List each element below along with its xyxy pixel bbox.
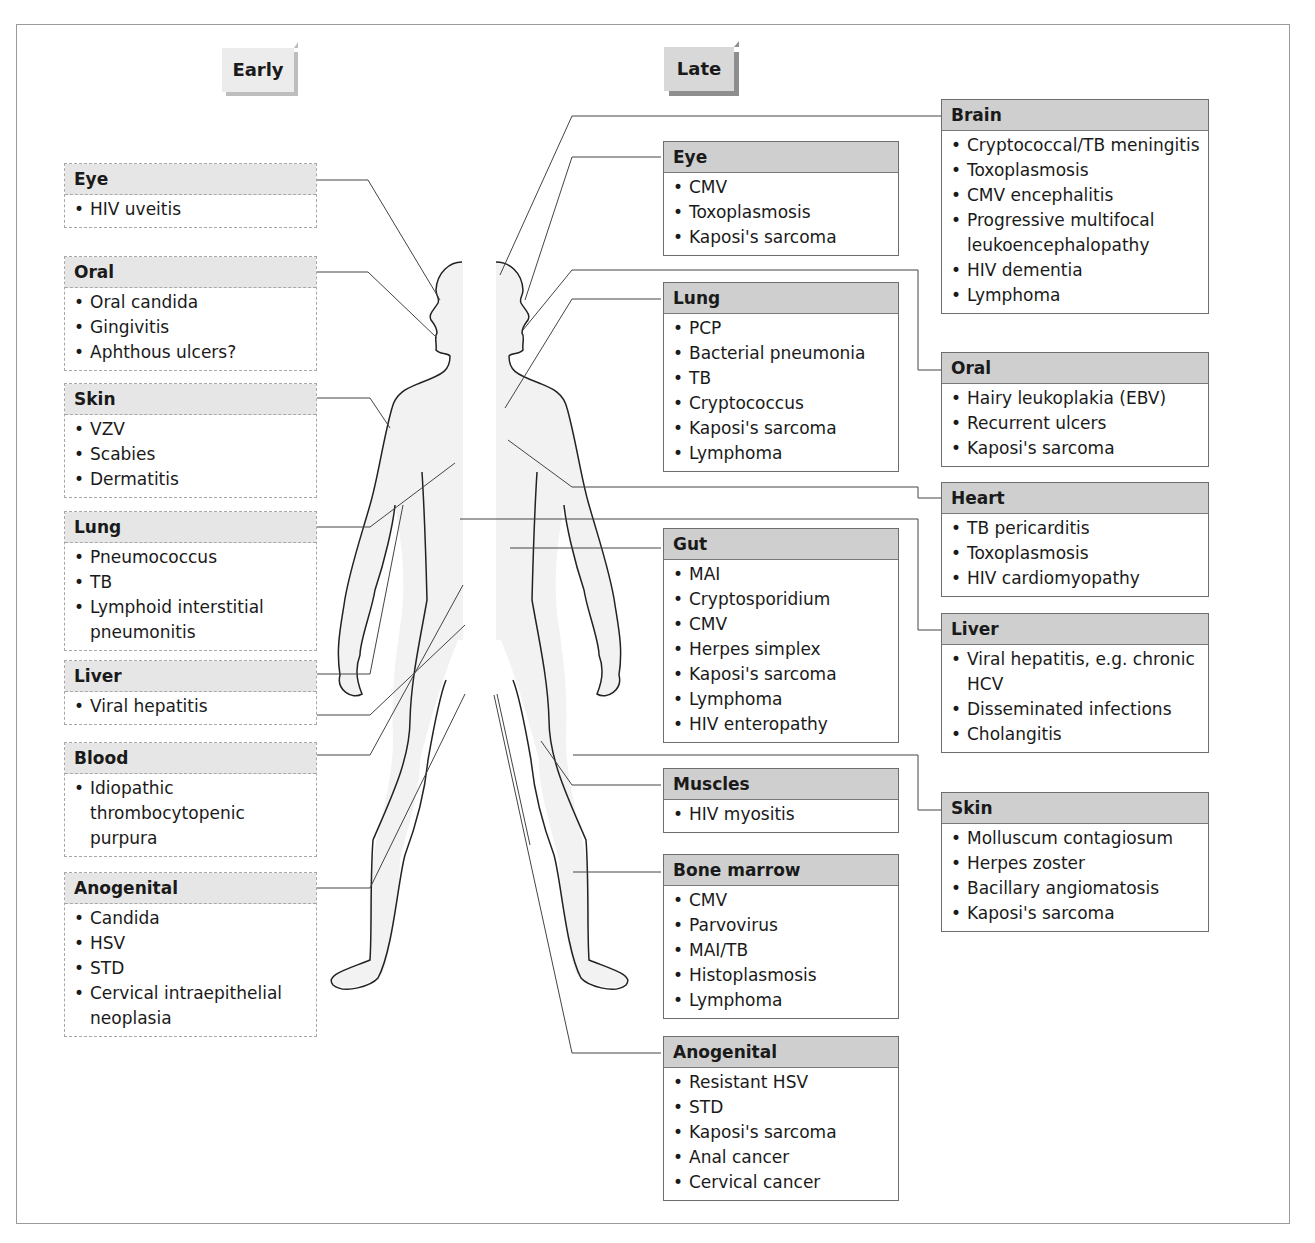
early-box-liver: Liver Viral hepatitis: [64, 660, 317, 725]
list-item: Lymphoma: [673, 988, 892, 1013]
list-item: Lymphoma: [673, 687, 892, 712]
list-item: Kaposi's sarcoma: [673, 225, 892, 250]
early-box-eye: Eye HIV uveitis: [64, 163, 317, 228]
list-item: Kaposi's sarcoma: [673, 416, 892, 441]
box-title: Skin: [65, 384, 316, 415]
box-title: Lung: [664, 283, 898, 314]
list-item: Aphthous ulcers?: [74, 340, 310, 365]
list-item: Gingivitis: [74, 315, 310, 340]
box-title: Gut: [664, 529, 898, 560]
list-item: Scabies: [74, 442, 310, 467]
list-item: Lymphoma: [951, 283, 1202, 308]
late-box-muscles: Muscles HIV myositis: [663, 768, 899, 833]
early-box-anogenital: Anogenital Candida HSV STD Cervical intr…: [64, 872, 317, 1037]
list-item: MAI: [673, 562, 892, 587]
list-item: VZV: [74, 417, 310, 442]
list-item: Toxoplasmosis: [951, 158, 1202, 183]
early-box-oral: Oral Oral candida Gingivitis Aphthous ul…: [64, 256, 317, 371]
list-item: Viral hepatitis: [74, 694, 310, 719]
body-left-half: [332, 262, 463, 987]
list-item: TB pericarditis: [951, 516, 1202, 541]
list-item: HSV: [74, 931, 310, 956]
list-item: Progressive multifocal leukoencephalopat…: [951, 208, 1202, 258]
list-item: CMV: [673, 612, 892, 637]
list-item: CMV: [673, 888, 892, 913]
box-title: Liver: [942, 614, 1208, 645]
box-title: Skin: [942, 793, 1208, 824]
list-item: HIV uveitis: [74, 197, 310, 222]
list-item: Viral hepatitis, e.g. chronic HCV: [951, 647, 1202, 697]
box-title: Liver: [65, 661, 316, 692]
list-item: Kaposi's sarcoma: [951, 901, 1202, 926]
list-item: Cholangitis: [951, 722, 1202, 747]
list-item: Candida: [74, 906, 310, 931]
box-title: Bone marrow: [664, 855, 898, 886]
list-item: Kaposi's sarcoma: [673, 662, 892, 687]
box-title: Oral: [942, 353, 1208, 384]
list-item: STD: [673, 1095, 892, 1120]
box-title: Heart: [942, 483, 1208, 514]
list-item: Resistant HSV: [673, 1070, 892, 1095]
list-item: Lymphoid interstitial pneumonitis: [74, 595, 310, 645]
late-box-heart: Heart TB pericarditis Toxoplasmosis HIV …: [941, 482, 1209, 597]
late-box-lung: Lung PCP Bacterial pneumonia TB Cryptoco…: [663, 282, 899, 472]
list-item: HIV myositis: [673, 802, 892, 827]
late-box-oral: Oral Hairy leukoplakia (EBV) Recurrent u…: [941, 352, 1209, 467]
list-item: Idiopathic thrombocytopenic purpura: [74, 776, 310, 851]
late-box-anogenital: Anogenital Resistant HSV STD Kaposi's sa…: [663, 1036, 899, 1201]
list-item: Dermatitis: [74, 467, 310, 492]
list-item: Disseminated infections: [951, 697, 1202, 722]
early-box-blood: Blood Idiopathic thrombocytopenic purpur…: [64, 742, 317, 857]
early-box-skin: Skin VZV Scabies Dermatitis: [64, 383, 317, 498]
list-item: Cryptococcal/TB meningitis: [951, 133, 1202, 158]
box-title: Eye: [664, 142, 898, 173]
list-item: CMV encephalitis: [951, 183, 1202, 208]
list-item: TB: [673, 366, 892, 391]
late-box-skin: Skin Molluscum contagiosum Herpes zoster…: [941, 792, 1209, 932]
list-item: Cryptosporidium: [673, 587, 892, 612]
list-item: Toxoplasmosis: [673, 200, 892, 225]
list-item: Cervical intraepithelial neoplasia: [74, 981, 310, 1031]
box-title: Blood: [65, 743, 316, 774]
list-item: Cryptococcus: [673, 391, 892, 416]
list-item: Cervical cancer: [673, 1170, 892, 1195]
box-title: Lung: [65, 512, 316, 543]
list-item: Kaposi's sarcoma: [673, 1120, 892, 1145]
list-item: Pneumococcus: [74, 545, 310, 570]
list-item: Lymphoma: [673, 441, 892, 466]
box-title: Muscles: [664, 769, 898, 800]
box-title: Oral: [65, 257, 316, 288]
box-title: Brain: [942, 100, 1208, 131]
list-item: Kaposi's sarcoma: [951, 436, 1202, 461]
list-item: Bacillary angiomatosis: [951, 876, 1202, 901]
list-item: Hairy leukoplakia (EBV): [951, 386, 1202, 411]
late-box-eye: Eye CMV Toxoplasmosis Kaposi's sarcoma: [663, 141, 899, 256]
list-item: Herpes simplex: [673, 637, 892, 662]
list-item: TB: [74, 570, 310, 595]
list-item: Parvovirus: [673, 913, 892, 938]
list-item: PCP: [673, 316, 892, 341]
list-item: Herpes zoster: [951, 851, 1202, 876]
list-item: Molluscum contagiosum: [951, 826, 1202, 851]
late-box-liver: Liver Viral hepatitis, e.g. chronic HCV …: [941, 613, 1209, 753]
list-item: CMV: [673, 175, 892, 200]
box-title: Eye: [65, 164, 316, 195]
list-item: Histoplasmosis: [673, 963, 892, 988]
list-item: Oral candida: [74, 290, 310, 315]
late-box-gut: Gut MAI Cryptosporidium CMV Herpes simpl…: [663, 528, 899, 743]
list-item: MAI/TB: [673, 938, 892, 963]
body-right-half: [496, 262, 627, 987]
list-item: STD: [74, 956, 310, 981]
late-box-brain: Brain Cryptococcal/TB meningitis Toxopla…: [941, 99, 1209, 314]
list-item: HIV dementia: [951, 258, 1202, 283]
list-item: Anal cancer: [673, 1145, 892, 1170]
list-item: Recurrent ulcers: [951, 411, 1202, 436]
early-box-lung: Lung Pneumococcus TB Lymphoid interstiti…: [64, 511, 317, 651]
list-item: Toxoplasmosis: [951, 541, 1202, 566]
box-title: Anogenital: [664, 1037, 898, 1068]
list-item: Bacterial pneumonia: [673, 341, 892, 366]
box-title: Anogenital: [65, 873, 316, 904]
list-item: HIV enteropathy: [673, 712, 892, 737]
late-box-bone-marrow: Bone marrow CMV Parvovirus MAI/TB Histop…: [663, 854, 899, 1019]
list-item: HIV cardiomyopathy: [951, 566, 1202, 591]
